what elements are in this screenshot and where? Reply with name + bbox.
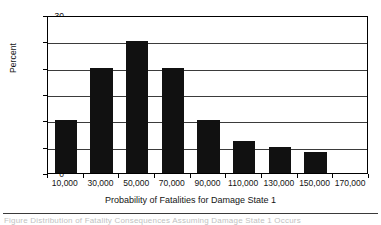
bar [162,68,184,173]
x-tick-mark [261,174,262,178]
bar-slot [262,17,298,173]
bar-slot [84,17,120,173]
x-tick-label: 50,000 [123,179,149,188]
bar-slot [333,17,369,173]
plot-area [47,16,368,174]
x-tick-label: 90,000 [195,179,221,188]
x-tick-mark [297,174,298,178]
bar [269,147,291,173]
footer-caption-clipped: Figure Distribution of Fatality Conseque… [4,218,377,225]
bar-series [48,17,367,173]
bar-slot [48,17,84,173]
footer-divider [3,213,378,214]
bar-slot [119,17,155,173]
x-axis-title: Probability of Fatalities for Damage Sta… [0,195,381,205]
x-tick-label: 110,000 [228,179,258,188]
figure-histogram: Percent 051015202530 10,00030,00050,0007… [0,0,381,225]
x-tick-mark [332,174,333,178]
x-tick-mark [118,174,119,178]
bar-slot [155,17,191,173]
bar [126,41,148,173]
x-tick-label: 10,000 [52,179,78,188]
bar [55,120,77,173]
bar-slot [226,17,262,173]
bar [304,152,326,173]
x-tick-mark [190,174,191,178]
x-tick-label: 150,000 [299,179,330,188]
bar [197,120,219,173]
bar [90,68,112,173]
x-tick-mark [225,174,226,178]
footer-caption-text: Figure Distribution of Fatality Conseque… [4,218,377,225]
x-tick-mark [368,174,369,178]
x-tick-mark [154,174,155,178]
bar-slot [298,17,334,173]
x-tick-label: 70,000 [159,179,185,188]
x-tick-label: 130,000 [263,179,294,188]
x-tick-label: 170,000 [335,179,366,188]
x-tick-mark [83,174,84,178]
y-axis-title: Percent [8,18,18,98]
x-tick-label: 30,000 [88,179,114,188]
x-tick-mark [47,174,48,178]
bar [233,141,255,173]
bar-slot [191,17,227,173]
